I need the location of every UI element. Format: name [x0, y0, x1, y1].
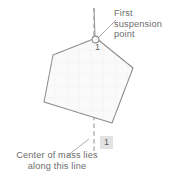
step-badge-bottom: 1	[100, 136, 113, 149]
label-first-suspension-point: First suspension point	[114, 8, 162, 40]
step-number-top: 1	[95, 42, 100, 52]
figure-canvas: First suspension point 1 1 Center of mas…	[0, 0, 181, 178]
label-center-of-mass: Center of mass lies along this line	[4, 150, 110, 171]
